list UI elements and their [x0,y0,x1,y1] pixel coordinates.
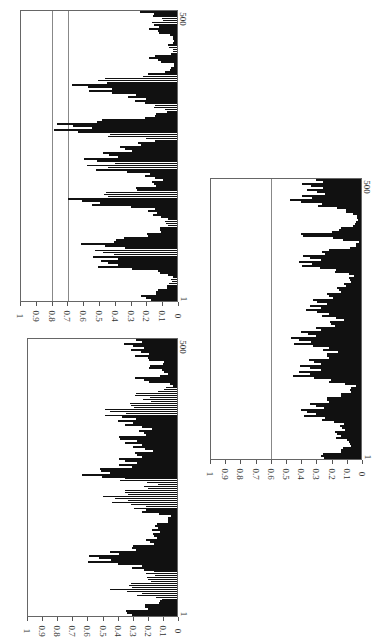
data-bar [155,105,177,107]
data-bar [299,261,361,263]
data-bar [128,96,177,98]
data-bar [157,537,177,539]
data-bar [341,395,361,397]
data-bar [343,447,361,449]
data-bar [341,291,361,293]
value-axis-tick-label: 0 [357,464,367,484]
data-bar [92,204,177,206]
data-bar [119,436,178,438]
data-bar [356,221,361,223]
data-bar [105,415,177,417]
data-bar [132,150,177,152]
data-bar [133,422,177,424]
data-bar [304,415,361,417]
data-bar [154,571,177,573]
data-bar [317,311,361,313]
data-bar [135,377,177,379]
data-bar [153,533,177,535]
data-bar [167,285,177,287]
data-bar [78,131,178,133]
data-bar [301,201,361,203]
data-bar [146,573,177,575]
data-bar [126,413,177,415]
data-bar [127,612,177,614]
data-bar [321,363,361,365]
data-bar [314,377,361,379]
value-axis-tick-label: 0 [173,306,183,326]
data-bar [329,295,361,297]
data-bar [89,555,177,557]
data-bar [88,561,177,563]
data-bar [157,212,177,214]
data-bar [331,379,361,381]
value-axis-tick-label: 0 [173,621,183,640]
data-bar [339,229,361,231]
data-bar [173,36,177,38]
data-bar [301,331,361,333]
data-bar [102,119,177,121]
data-bar [327,399,361,401]
data-bar [137,189,177,191]
data-bar [151,581,177,583]
data-bar [347,439,361,441]
data-bar [149,359,177,361]
data-bar [109,154,177,156]
data-bar [110,411,177,413]
data-bar [337,207,361,209]
data-bar [170,34,177,36]
chart-2: 00.10.20.30.40.50.60.70.80.911500 [0,330,200,640]
data-bar [135,100,177,102]
data-bar [96,169,177,171]
data-bar [137,440,177,442]
data-bar [89,90,177,92]
index-axis-end-label: 500 [178,340,188,354]
data-bar [303,255,361,257]
data-bar [337,433,361,435]
data-bar [112,88,177,90]
data-bar [145,102,177,104]
data-bar [171,53,177,55]
data-bar [329,249,361,251]
data-bar [310,403,361,405]
value-axis-tick-label: 1 [22,621,32,640]
data-bar [290,199,361,201]
data-bar [171,279,177,281]
data-bar [97,121,177,123]
value-axis-tick-label: 0.9 [31,306,41,326]
value-axis-tick-label: 0.5 [98,621,108,640]
data-bar [146,539,178,541]
value-axis-tick-label: 1 [15,306,25,326]
data-bar [146,506,178,508]
data-bar [124,343,177,345]
data-bar [137,462,177,464]
data-bar [301,409,361,411]
data-bar [329,357,361,359]
data-bar [158,59,177,61]
data-bar [168,373,177,375]
data-bar [293,375,361,377]
data-bar [149,28,177,30]
data-bar [158,30,177,32]
data-bar [333,237,361,239]
data-bar [345,383,361,385]
data-bar [316,179,361,181]
data-bar [322,203,361,205]
data-bar [68,198,177,200]
data-bar [130,403,177,405]
data-bar [173,385,177,387]
data-bar [132,547,177,549]
data-bar [110,589,177,591]
data-bar [173,51,177,53]
data-bar [114,241,177,243]
data-bar [313,299,361,301]
data-bar [169,47,177,49]
data-bar [313,345,361,347]
data-bar [141,295,177,297]
data-bar [142,341,177,343]
data-bar [148,579,177,581]
data-bar [359,241,361,243]
data-bar [138,142,177,144]
data-bar [136,94,177,96]
data-bar [294,343,361,345]
value-axis-tick-label: 0.8 [52,621,62,640]
